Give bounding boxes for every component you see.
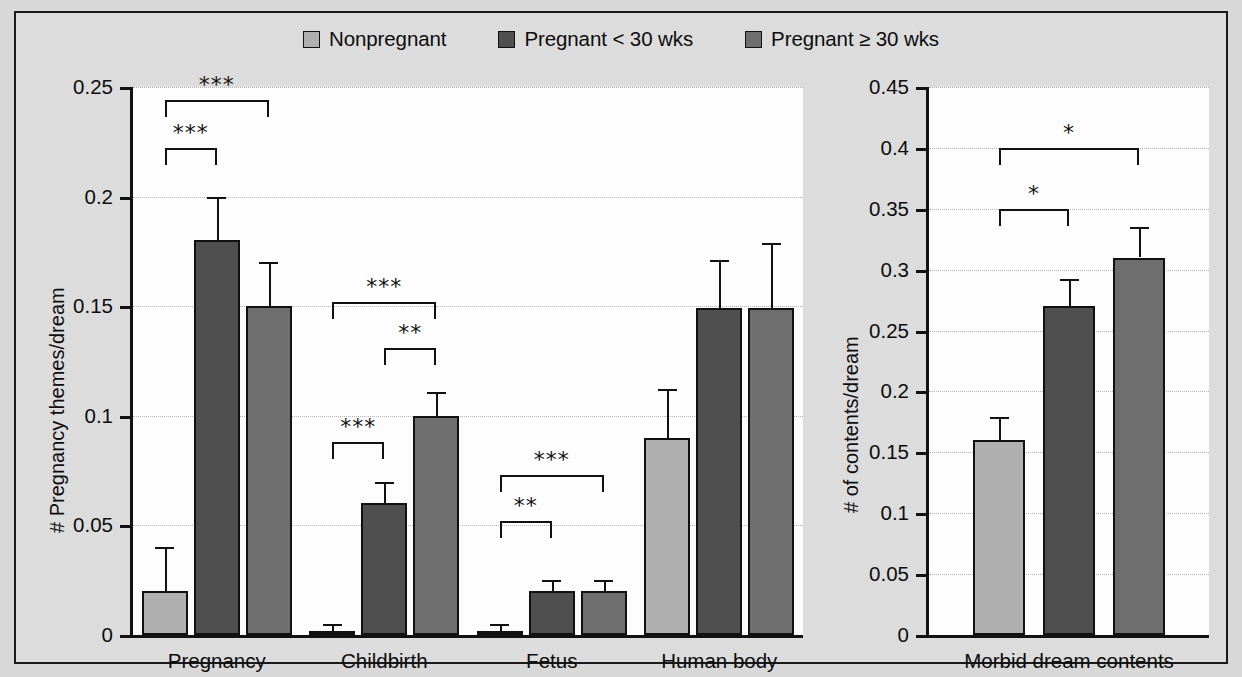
bracket-right-tick: [1137, 148, 1139, 165]
error-bar-cap: [375, 482, 394, 484]
y-axis-tick: [916, 270, 927, 273]
error-bar: [719, 260, 721, 308]
plot-area-right: 00.050.10.150.20.250.30.350.40.45Morbid …: [926, 87, 1209, 638]
y-axis-tick: [120, 416, 131, 419]
bar: [142, 591, 188, 635]
bracket-right-tick: [215, 148, 217, 165]
error-bar-cap: [1130, 227, 1149, 229]
significance-bracket: ***: [165, 148, 217, 165]
significance-stars: ***: [173, 122, 209, 144]
significance-bracket: ***: [165, 100, 269, 117]
x-axis-tick-label: Pregnancy: [168, 649, 266, 673]
error-bar: [217, 197, 219, 241]
error-bar: [436, 392, 438, 416]
significance-stars: ***: [366, 276, 402, 298]
y-axis-tick-label: 0.15: [73, 294, 113, 318]
x-axis-tick-label: Fetus: [526, 649, 577, 673]
legend-swatch-pregnant-under-30: [498, 31, 515, 48]
bracket-right-tick: [267, 100, 269, 117]
error-bar-cap: [259, 262, 278, 264]
bracket-left-tick: [165, 100, 167, 117]
bracket-right-tick: [1067, 209, 1069, 226]
significance-bracket: *: [999, 148, 1139, 165]
error-bar: [165, 547, 167, 591]
gridline: [133, 197, 803, 198]
y-axis-tick: [120, 635, 131, 638]
chart-panel-left: # Pregnancy themes/dream 00.050.10.150.2…: [20, 63, 820, 658]
y-axis-tick-label: 0: [102, 623, 113, 647]
x-axis-tick-label: Childbirth: [341, 649, 428, 673]
bracket-right-tick: [602, 475, 604, 492]
bar: [581, 591, 627, 635]
bracket-left-tick: [999, 148, 1001, 165]
bar: [194, 240, 240, 635]
legend-label-nonpregnant: Nonpregnant: [329, 27, 446, 51]
bar: [973, 440, 1025, 635]
y-axis-tick-label: 0: [898, 623, 909, 647]
bar: [644, 438, 690, 635]
significance-stars: ***: [340, 416, 376, 438]
bar: [529, 591, 575, 635]
error-bar-cap: [427, 392, 446, 394]
bar: [413, 416, 459, 635]
bracket-top-line: [999, 209, 1069, 211]
bracket-right-tick: [434, 302, 436, 319]
y-axis-tick: [120, 87, 131, 90]
error-bar-cap: [594, 580, 613, 582]
legend-label-pregnant-under-30: Pregnant < 30 wks: [524, 27, 693, 51]
error-bar: [999, 417, 1001, 440]
y-axis-tick: [916, 513, 927, 516]
y-axis-tick: [916, 391, 927, 394]
significance-stars: *: [1028, 183, 1040, 205]
error-bar-cap: [207, 197, 226, 199]
y-axis-tick-label: 0.35: [869, 197, 909, 221]
y-axis-tick: [916, 452, 927, 455]
bracket-left-tick: [384, 348, 386, 365]
y-axis-tick-label: 0.1: [881, 501, 910, 525]
y-axis-tick-label: 0.3: [881, 258, 910, 282]
y-axis-tick: [916, 209, 927, 212]
bar: [696, 308, 742, 635]
significance-stars: ***: [534, 449, 570, 471]
bracket-top-line: [332, 302, 436, 304]
y-axis-tick-label: 0.25: [73, 75, 113, 99]
y-axis-tick: [120, 525, 131, 528]
error-bar-cap: [990, 417, 1009, 419]
gridline: [929, 87, 1209, 88]
gridline: [929, 270, 1209, 271]
error-bar: [667, 389, 669, 437]
bracket-top-line: [384, 348, 436, 350]
error-bar-cap: [155, 547, 174, 549]
error-bar-cap: [762, 243, 781, 245]
bracket-top-line: [500, 521, 552, 523]
error-bar: [771, 243, 773, 309]
bracket-left-tick: [500, 521, 502, 538]
bar: [748, 308, 794, 635]
bracket-left-tick: [500, 475, 502, 492]
bracket-left-tick: [165, 148, 167, 165]
bar: [361, 503, 407, 635]
bracket-top-line: [165, 100, 269, 102]
bracket-left-tick: [999, 209, 1001, 226]
gridline: [929, 209, 1209, 210]
y-axis-tick-label: 0.2: [85, 185, 114, 209]
error-bar-cap: [542, 580, 561, 582]
y-axis-tick-label: 0.05: [869, 562, 909, 586]
significance-stars: **: [514, 495, 538, 517]
significance-bracket: ***: [332, 302, 436, 319]
legend-swatch-pregnant-over-30: [745, 31, 762, 48]
figure-frame: Nonpregnant Pregnant < 30 wks Pregnant ≥…: [14, 11, 1228, 664]
bar: [1113, 258, 1165, 636]
significance-bracket: **: [500, 521, 552, 538]
error-bar-cap: [658, 389, 677, 391]
significance-bracket: ***: [332, 442, 384, 459]
chart-panel-right: # of contents/dream 00.050.10.150.20.250…: [822, 63, 1226, 658]
significance-bracket: **: [384, 348, 436, 365]
legend-item-pregnant-under-30: Pregnant < 30 wks: [498, 27, 693, 51]
bracket-right-tick: [550, 521, 552, 538]
y-axis-tick-label: 0.2: [881, 379, 910, 403]
bracket-left-tick: [332, 302, 334, 319]
y-axis-tick: [916, 331, 927, 334]
legend-label-pregnant-over-30: Pregnant ≥ 30 wks: [771, 27, 939, 51]
legend-item-pregnant-over-30: Pregnant ≥ 30 wks: [745, 27, 939, 51]
